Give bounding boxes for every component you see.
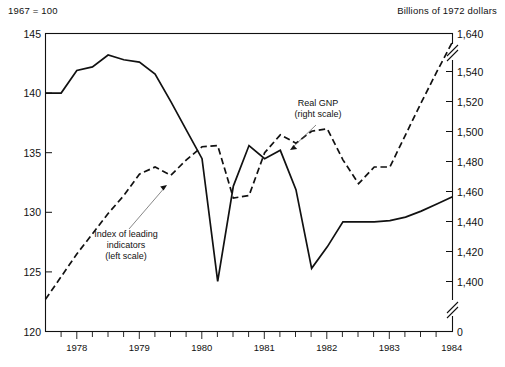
annotation-real-gnp-line1: Real GNP [298, 98, 339, 108]
left-tick-label-130: 130 [23, 206, 41, 218]
right-tick-label-1540: 1,540 [457, 66, 483, 78]
arrowhead-icon [290, 145, 297, 150]
right-axis-break-upper [447, 44, 458, 61]
x-tick-label-1982: 1982 [316, 342, 337, 353]
right-tick-label-1500: 1,500 [457, 126, 483, 138]
right-tick-label-1480: 1,480 [457, 156, 483, 168]
right-tick-label-1400: 1,400 [457, 276, 483, 288]
x-tick-label-1978: 1978 [66, 342, 87, 353]
right-tick-label-1520: 1,520 [457, 96, 483, 108]
x-tick-label-1983: 1983 [379, 342, 400, 353]
x-axis: 1978 1979 1980 1981 1982 1983 1984 [61, 332, 462, 354]
chart-figure: 1967 = 100 Billions of 1972 dollars 145 … [0, 0, 505, 367]
annotation-leading-indicators: Index of leading indicators (left scale) [94, 185, 167, 261]
right-tick-label-1640: 1,640 [457, 28, 483, 40]
annotation-leading-indicators-line3: (left scale) [105, 251, 147, 261]
chart-svg: 145 140 135 130 125 120 1,640 [0, 0, 505, 367]
x-tick-label-1984: 1984 [441, 342, 462, 353]
arrowhead-icon [160, 185, 167, 191]
right-axis-break-lower [447, 300, 458, 318]
left-tick-label-145: 145 [23, 28, 41, 40]
right-axis: 1,640 1,540 1,520 1,500 1,480 1,460 1,44… [446, 28, 483, 338]
annotation-leading-indicators-line1: Index of leading [94, 229, 158, 239]
plot-frame [46, 34, 453, 332]
left-tick-label-135: 135 [23, 147, 41, 159]
left-tick-label-140: 140 [23, 87, 41, 99]
left-tick-label-120: 120 [23, 326, 41, 338]
x-tick-label-1979: 1979 [129, 342, 150, 353]
left-tick-label-125: 125 [23, 266, 41, 278]
x-tick-label-1981: 1981 [254, 342, 275, 353]
right-tick-label-0: 0 [457, 326, 463, 338]
annotation-real-gnp-line2: (right scale) [294, 109, 341, 119]
right-tick-label-1460: 1,460 [457, 186, 483, 198]
left-axis: 145 140 135 130 125 120 [23, 28, 52, 338]
x-tick-label-1980: 1980 [191, 342, 212, 353]
right-tick-label-1440: 1,440 [457, 216, 483, 228]
right-tick-label-1420: 1,420 [457, 246, 483, 258]
annotation-leading-indicators-line2: indicators [107, 240, 146, 250]
